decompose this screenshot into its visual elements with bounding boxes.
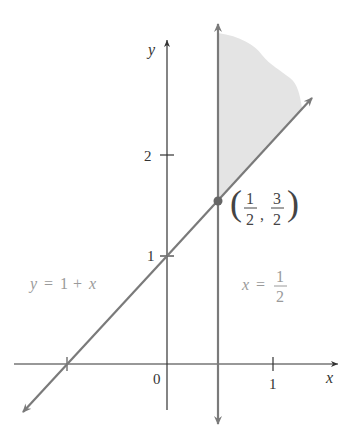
svg-text:(: ( bbox=[230, 183, 242, 223]
svg-text:,: , bbox=[260, 206, 264, 223]
svg-text:1: 1 bbox=[276, 268, 284, 285]
svg-text:2: 2 bbox=[276, 288, 284, 305]
svg-text:3: 3 bbox=[273, 190, 281, 207]
y-tick-label-2: 2 bbox=[144, 148, 152, 164]
shaded-region bbox=[218, 33, 302, 201]
x-tick-label-1: 1 bbox=[269, 376, 277, 392]
svg-text:x: x bbox=[241, 276, 249, 293]
svg-text:2: 2 bbox=[273, 211, 281, 228]
diagram-canvas: y x 0 1 1 2 y = 1 + x x = 1 2 ( 1 2 , 3 … bbox=[0, 0, 361, 444]
svg-text:+: + bbox=[73, 275, 82, 292]
svg-text:1: 1 bbox=[60, 275, 68, 292]
y-axis-label: y bbox=[146, 41, 156, 59]
equation-label-vertical: x = 1 2 bbox=[241, 268, 287, 305]
intersection-point bbox=[214, 197, 223, 206]
svg-text:): ) bbox=[287, 183, 299, 223]
y-tick-label-1: 1 bbox=[147, 248, 155, 264]
svg-text:=: = bbox=[256, 276, 265, 293]
svg-text:=: = bbox=[44, 275, 53, 292]
equation-label-diagonal: y = 1 + x bbox=[28, 275, 96, 293]
svg-text:1: 1 bbox=[246, 190, 254, 207]
origin-label: 0 bbox=[153, 371, 161, 387]
svg-text:y: y bbox=[28, 275, 38, 293]
svg-text:x: x bbox=[88, 275, 96, 292]
intersection-label: ( 1 2 , 3 2 ) bbox=[230, 183, 299, 228]
svg-text:2: 2 bbox=[246, 211, 254, 228]
x-axis-label: x bbox=[325, 369, 333, 386]
